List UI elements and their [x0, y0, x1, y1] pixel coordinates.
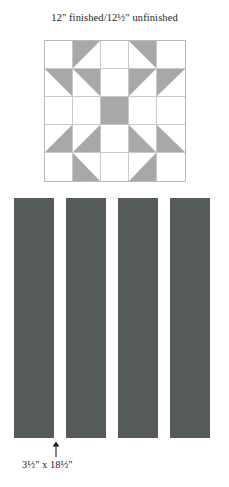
patch-solid — [101, 97, 128, 124]
quilt-patch-r0-c0 — [45, 41, 73, 69]
fabric-strip — [170, 198, 210, 438]
patch-tri-br — [45, 125, 72, 152]
quilt-block-diagram — [44, 40, 186, 182]
quilt-patch-r2-c3 — [129, 97, 157, 125]
patch-tri-bl — [157, 125, 185, 152]
quilt-patch-r2-c1 — [73, 97, 101, 125]
quilt-patch-r0-c4 — [157, 41, 185, 69]
quilt-patch-r1-c4 — [157, 69, 185, 97]
patch-tri-br — [73, 125, 100, 152]
quilt-patch-r2-c2 — [101, 97, 129, 125]
quilt-patch-r0-c1 — [73, 41, 101, 69]
fabric-strip — [118, 198, 158, 438]
quilt-patch-r3-c2 — [101, 125, 129, 153]
patch-tri-tr — [73, 69, 100, 96]
fabric-strip — [66, 198, 106, 438]
patch-tri-tr — [129, 41, 156, 68]
quilt-patch-r4-c2 — [101, 153, 129, 181]
quilt-patch-r0-c3 — [129, 41, 157, 69]
patch-tri-bl — [73, 153, 100, 181]
quilt-patch-r3-c0 — [45, 125, 73, 153]
patch-tri-tr — [45, 69, 72, 96]
patch-tri-tl — [157, 69, 185, 96]
quilt-patch-r4-c3 — [129, 153, 157, 181]
strip-size-caption: 3½" x 18½" — [22, 458, 142, 471]
page-title: 12" finished/12½" unfinished — [0, 12, 229, 24]
arrow-up-icon — [49, 441, 63, 457]
patch-tri-bl — [129, 125, 156, 152]
quilt-patch-r0-c2 — [101, 41, 129, 69]
quilt-patch-r3-c1 — [73, 125, 101, 153]
quilt-patch-r1-c0 — [45, 69, 73, 97]
quilt-patch-r3-c3 — [129, 125, 157, 153]
quilt-patch-r2-c0 — [45, 97, 73, 125]
quilt-patch-r1-c3 — [129, 69, 157, 97]
patch-tri-tl — [73, 41, 100, 68]
fabric-strip — [14, 198, 54, 438]
quilt-patch-r1-c2 — [101, 69, 129, 97]
quilt-patch-r2-c4 — [157, 97, 185, 125]
quilt-patch-r1-c1 — [73, 69, 101, 97]
quilt-patch-r4-c4 — [157, 153, 185, 181]
patch-tri-tl — [129, 69, 156, 96]
quilt-patch-r4-c1 — [73, 153, 101, 181]
quilt-patch-r3-c4 — [157, 125, 185, 153]
quilt-patch-r4-c0 — [45, 153, 73, 181]
patch-tri-br — [129, 153, 156, 181]
